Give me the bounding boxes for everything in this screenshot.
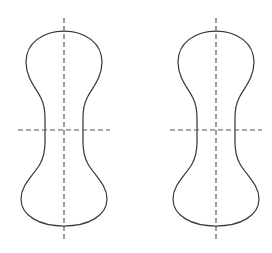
figure-canvas: Two body-of-revolution profile outlines … bbox=[0, 0, 272, 253]
figure-svg: Two body-of-revolution profile outlines … bbox=[0, 0, 272, 253]
left-gourd-shape bbox=[18, 18, 110, 240]
right-gourd-shape bbox=[170, 18, 262, 240]
